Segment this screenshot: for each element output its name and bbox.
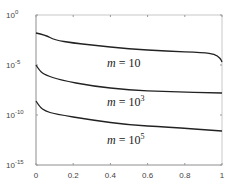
curve-label-3: m = 105 (107, 132, 144, 147)
x-tick-label: 0 (34, 171, 39, 180)
y-tick-label: 100 (6, 9, 19, 20)
curve-labels: m = 10m = 103m = 105 (107, 56, 144, 147)
x-tick-label: 0.4 (105, 171, 117, 180)
y-tick-label: 10-5 (6, 59, 21, 70)
x-tick-label: 0.2 (68, 171, 80, 180)
x-tick-label: 0.8 (179, 171, 191, 180)
curve-label-1: m = 10 (107, 56, 140, 70)
x-tick-label: 1 (220, 171, 225, 180)
curves (36, 33, 222, 131)
curve-label-2: m = 103 (107, 94, 144, 109)
y-tick-label: 10-15 (6, 159, 24, 170)
y-tick-label: 10-10 (6, 109, 24, 120)
x-tick-label: 0.6 (142, 171, 154, 180)
chart: 10010-510-1010-15 00.20.40.60.81 m = 10m… (0, 0, 234, 186)
